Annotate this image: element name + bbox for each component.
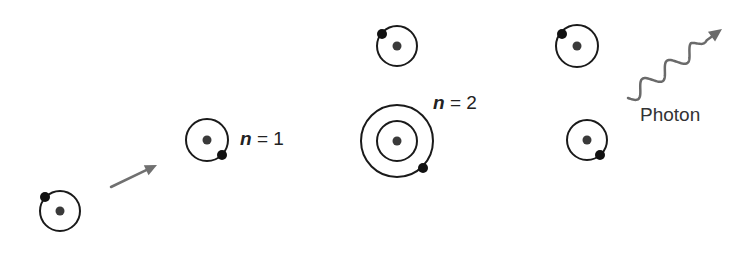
label-n2-value: = 2 xyxy=(445,92,477,113)
atom-ground-target xyxy=(186,119,228,161)
atom-top-right xyxy=(556,25,598,67)
label-n2-variable: n xyxy=(433,92,445,113)
label-n-equals-2: n = 2 xyxy=(433,92,477,114)
atom-incoming xyxy=(40,191,80,231)
nucleus xyxy=(56,207,65,216)
nucleus xyxy=(393,137,402,146)
photon-wave-arrow xyxy=(628,29,722,100)
label-n1-value: = 1 xyxy=(252,128,284,149)
electron xyxy=(217,150,227,160)
label-n-equals-1: n = 1 xyxy=(240,128,284,150)
atoms-group xyxy=(40,25,607,231)
nucleus xyxy=(203,136,212,145)
electron xyxy=(418,163,428,173)
label-photon: Photon xyxy=(640,104,700,126)
diagram-canvas xyxy=(0,0,755,260)
electron xyxy=(557,29,567,39)
nucleus xyxy=(573,42,582,51)
label-n1-variable: n xyxy=(240,128,252,149)
atom-scattered-top xyxy=(377,26,417,66)
collision-arrow xyxy=(111,165,157,187)
nucleus xyxy=(583,136,592,145)
electron xyxy=(595,150,605,160)
electron xyxy=(377,29,387,39)
nucleus xyxy=(393,42,402,51)
atom-deexcited xyxy=(567,120,607,160)
atom-excited xyxy=(361,105,433,177)
electron xyxy=(40,192,50,202)
